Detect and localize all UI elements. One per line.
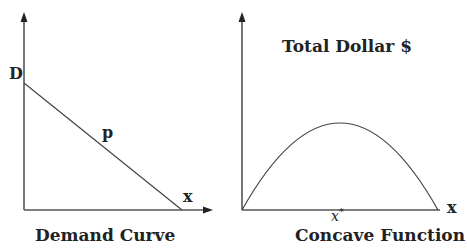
x-star-label: x*: [331, 206, 344, 224]
right-y-axis-arrow-icon: [239, 12, 246, 22]
demand-curve-p-label: p: [102, 123, 113, 142]
left-y-axis-arrow-icon: [21, 12, 28, 22]
concave-function-panel: Total Dollar $ x x* Concave Function: [239, 12, 466, 245]
concave-curve: [242, 123, 438, 210]
demand-curve-title: Demand Curve: [35, 225, 175, 245]
left-x-axis-arrow-icon: [203, 207, 213, 214]
total-dollar-label: Total Dollar $: [282, 36, 412, 56]
right-x-axis-label: x: [447, 198, 457, 217]
demand-intercept-label: D: [9, 64, 23, 83]
demand-curve-panel: D p x Demand Curve: [9, 12, 213, 245]
left-x-axis-label: x: [183, 187, 193, 206]
demand-line: [24, 83, 182, 210]
concave-function-title: Concave Function: [295, 225, 465, 245]
diagram-canvas: D p x Demand Curve Total Dollar $ x x* C…: [0, 0, 467, 249]
